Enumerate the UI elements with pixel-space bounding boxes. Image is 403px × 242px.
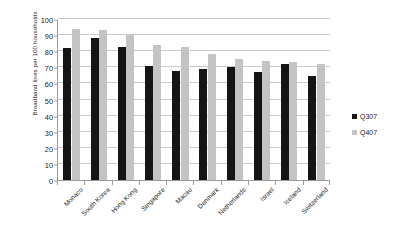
x-axis-tick-mark [248,181,275,185]
bar-group [276,20,303,180]
bar [91,38,99,180]
bar-group [58,20,85,180]
x-axis-tick-label: Singapore [139,186,165,212]
bar-group [194,20,221,180]
gridline [58,18,330,19]
y-axis-tick-label: 100 [41,16,53,25]
x-axis-tick-label: Macau [174,186,193,205]
x-axis-tick-mark [57,181,84,185]
bar [289,62,297,180]
bar [99,30,107,180]
x-axis-tick-mark [166,181,193,185]
x-axis-tick-label: Israel [258,186,274,202]
y-axis-tick-label: 10 [45,160,53,169]
y-axis-tick-label: 80 [45,48,53,57]
bar [153,45,161,180]
x-axis-tick-mark [275,181,302,185]
bar [145,66,153,180]
bar-group [248,20,275,180]
bar [172,71,180,180]
bar [308,76,316,180]
bar [262,61,270,180]
bar [72,29,80,180]
bar-group [112,20,139,180]
x-axis-tick-label: Iceland [282,186,302,206]
y-axis-tick-label: 60 [45,80,53,89]
bar [254,72,262,180]
bar [208,54,216,180]
x-axis-tick-label: Switzerland [300,186,329,215]
legend-label: Q307 [360,113,377,120]
x-axis-tick-mark [193,181,220,185]
x-axis-tick-mark [303,181,330,185]
y-axis-tick-labels: 0102030405060708090100 [0,20,57,181]
bar-group [140,20,167,180]
bar-chart: Broadband lines per 100 households 01020… [0,0,403,242]
x-axis-tick-label: Netherlands [217,186,247,216]
bar-group [303,20,330,180]
x-axis-tick-mark [84,181,111,185]
legend-label: Q407 [360,129,377,136]
y-axis-tick-label: 40 [45,112,53,121]
bar [199,69,207,180]
legend-item: Q407 [352,129,377,136]
y-axis-tick-label: 0 [49,177,53,186]
bar [63,48,71,180]
x-axis-tick-mark [112,181,139,185]
y-axis-tick-label: 70 [45,64,53,73]
x-axis-tick-mark [221,181,248,185]
plot-area [57,20,330,181]
x-axis-tick-marks [57,181,330,185]
bar [317,64,325,180]
y-axis-tick-label: 90 [45,32,53,41]
bar-group [221,20,248,180]
x-axis-tick-mark [139,181,166,185]
bar-group [167,20,194,180]
bar [235,59,243,180]
y-axis-tick-label: 30 [45,128,53,137]
bar-groups [58,20,330,180]
x-axis-tick-label: Monaco [62,186,84,208]
bar [281,64,289,180]
legend-swatch [352,130,357,135]
x-axis-tick-label: Denmark [196,186,220,210]
bar [126,35,134,180]
x-axis-tick-label: South Korea [80,186,111,217]
legend-swatch [352,114,357,119]
x-axis-tick-labels: MonacoSouth KoreaHong KongSingaporeMacau… [57,186,330,242]
y-axis-tick-label: 50 [45,96,53,105]
y-axis-tick-label: 20 [45,144,53,153]
chart-legend: Q307Q407 [352,113,377,136]
bar [227,67,235,181]
bar [181,47,189,180]
legend-item: Q307 [352,113,377,120]
x-axis-tick-label: Hong Kong [110,186,138,214]
bar [118,47,126,180]
bar-group [85,20,112,180]
